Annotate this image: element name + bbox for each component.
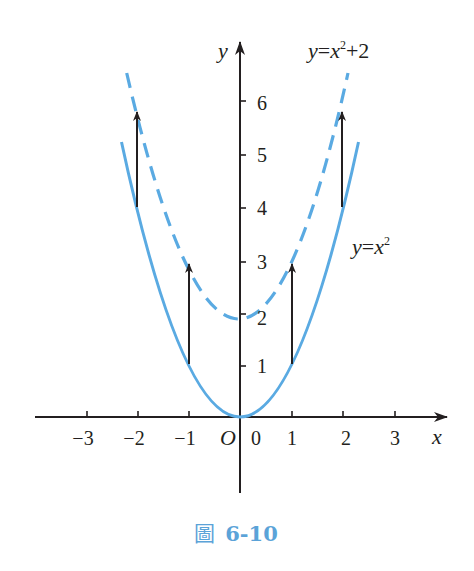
svg-text:2: 2: [257, 307, 267, 329]
svg-text:6: 6: [257, 92, 267, 114]
svg-text:−1: −1: [174, 427, 195, 449]
label-base-curve: y=x2: [350, 234, 390, 259]
svg-text:1: 1: [287, 427, 297, 449]
svg-text:5: 5: [257, 144, 267, 166]
svg-text:−3: −3: [72, 427, 93, 449]
svg-text:4: 4: [257, 197, 267, 219]
y-tick-labels: 1 2 3 4 5 6: [257, 92, 267, 377]
svg-text:1: 1: [257, 355, 267, 377]
svg-text:3: 3: [390, 427, 400, 449]
svg-text:3: 3: [257, 251, 267, 273]
curve-y-equals-x-squared-plus-2: [127, 73, 348, 319]
x-axis-label: x: [431, 424, 442, 449]
figure-caption: 圖6-10: [194, 521, 278, 546]
caption-number: 6-10: [225, 521, 278, 546]
svg-text:0: 0: [251, 427, 261, 449]
svg-text:−2: −2: [123, 427, 144, 449]
x-tick-labels: −3 −2 −1 0 1 2 3: [72, 427, 400, 449]
caption-prefix: 圖: [194, 522, 215, 546]
figure-canvas: y x O −3 −2 −1 0 1 2 3 1 2 3 4 5 6 y=x2+…: [0, 0, 474, 571]
label-shifted-curve: y=x2+2: [306, 38, 369, 63]
svg-text:2: 2: [341, 427, 351, 449]
origin-label: O: [220, 425, 236, 450]
y-axis-label: y: [216, 38, 228, 63]
